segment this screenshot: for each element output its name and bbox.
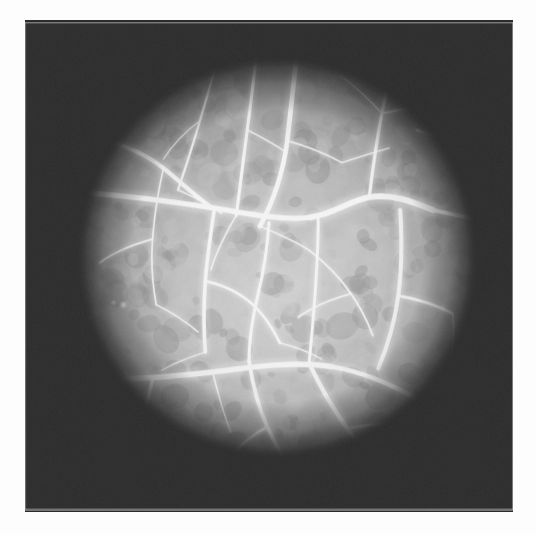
film-grain-overlay [25, 22, 513, 509]
page-canvas [0, 0, 536, 535]
fundus-image [25, 20, 513, 512]
fundus-photograph [25, 20, 513, 512]
